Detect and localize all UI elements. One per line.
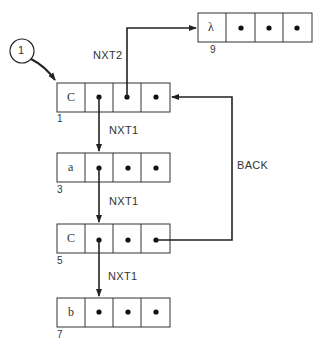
entry-arrow — [31, 59, 55, 80]
pointer-dot — [96, 309, 101, 314]
pointer-dot — [238, 25, 243, 30]
pointer-dot — [153, 309, 158, 314]
node-9-index: 9 — [210, 44, 216, 55]
node-1-head: C — [67, 90, 75, 105]
node-3-index: 3 — [57, 184, 63, 195]
node-9-head: λ — [208, 20, 214, 35]
pointer-dot — [266, 25, 271, 30]
pointer-dot — [125, 237, 130, 242]
node-3-head: a — [68, 160, 74, 175]
diagram-canvas — [0, 0, 326, 349]
node-7-head: b — [68, 305, 74, 320]
edge-label-nxt1: NXT1 — [109, 195, 138, 207]
node-7-index: 7 — [57, 329, 63, 340]
node-5-index: 5 — [57, 255, 63, 266]
entry-label: 1 — [18, 44, 24, 56]
pointer-dot — [125, 165, 130, 170]
pointer-dot — [153, 94, 158, 99]
node-5-head: C — [67, 231, 75, 246]
node-1-index: 1 — [57, 113, 63, 124]
pointer-dot — [153, 165, 158, 170]
pointer-dot — [125, 309, 130, 314]
edge-label-nxt2: NXT2 — [93, 49, 122, 61]
pointer-dot — [294, 25, 299, 30]
edge-label-nxt1: NXT1 — [108, 270, 137, 282]
edge-label-back: BACK — [237, 159, 268, 171]
edge-label-nxt1: NXT1 — [109, 124, 138, 136]
